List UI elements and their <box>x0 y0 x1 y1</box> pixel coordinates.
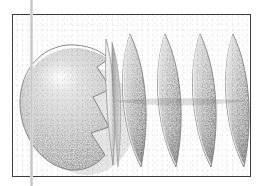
geometry-render <box>13 15 252 178</box>
figure-frame <box>12 14 251 177</box>
figure-canvas <box>13 15 252 178</box>
figure-caption <box>0 178 260 186</box>
page-margin-line-core <box>31 0 32 186</box>
figure-page <box>0 0 260 186</box>
